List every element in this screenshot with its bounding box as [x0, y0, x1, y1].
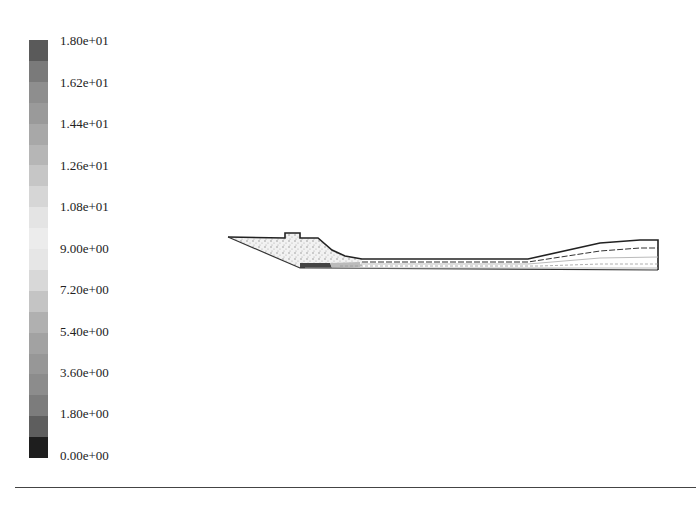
divider-line — [15, 487, 696, 488]
contour-line-1 — [362, 248, 658, 262]
contour-line-2 — [362, 257, 658, 264]
contour-plot — [0, 0, 696, 506]
core-region — [300, 263, 332, 268]
